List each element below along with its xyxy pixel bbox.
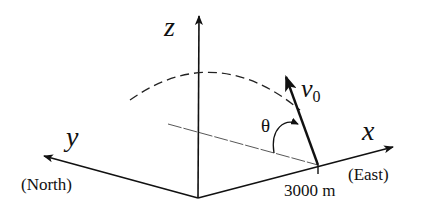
horizontal-projection-line: [168, 124, 318, 165]
y-axis-label: y: [63, 121, 79, 152]
velocity-symbol: v: [301, 74, 313, 103]
z-axis: [198, 16, 199, 198]
projectile-diagram: z y (North) x (East) 3000 m θ v0: [0, 0, 428, 224]
diagram-canvas: z y (North) x (East) 3000 m θ v0: [0, 0, 428, 224]
theta-label: θ: [261, 115, 270, 136]
distance-label: 3000 m: [284, 181, 335, 200]
trajectory-arc: [130, 72, 300, 110]
x-direction-label: (East): [348, 165, 389, 184]
velocity-subscript: 0: [313, 88, 321, 105]
z-axis-label: z: [163, 11, 175, 42]
angle-arc: [273, 122, 298, 153]
x-axis-label: x: [361, 115, 375, 146]
velocity-label: v0: [301, 74, 321, 105]
y-direction-label: (North): [21, 175, 72, 194]
